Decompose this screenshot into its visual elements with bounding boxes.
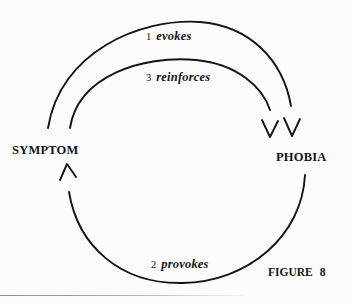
page-rule-divider	[0, 295, 243, 296]
node-label-symptom: SYMPTOM	[12, 143, 78, 158]
arc-step-number-provokes: 2	[151, 259, 156, 270]
arc-verb-evokes: evokes	[156, 29, 191, 43]
arc-verb-reinforces: reinforces	[156, 70, 210, 84]
arc-label-provokes: 2provokes	[151, 257, 209, 272]
figure-diagram: SYMPTOM PHOBIA 1evokes 3reinforces 2prov…	[0, 0, 352, 304]
arc-label-reinforces: 3reinforces	[146, 70, 210, 85]
arc-label-evokes: 1evokes	[146, 29, 191, 44]
arc-verb-provokes: provokes	[161, 257, 208, 271]
figure-caption-word: FIGURE	[268, 266, 313, 278]
arc-step-number-evokes: 1	[146, 31, 151, 42]
node-label-phobia: PHOBIA	[276, 150, 327, 165]
figure-caption: FIGURE8	[268, 266, 325, 278]
arrowhead-reinforces-icon	[262, 120, 278, 137]
figure-caption-number: 8	[320, 266, 326, 278]
arrowhead-evokes-icon	[284, 118, 300, 136]
arrowhead-provokes-icon	[60, 164, 76, 180]
arc-step-number-reinforces: 3	[146, 72, 151, 83]
